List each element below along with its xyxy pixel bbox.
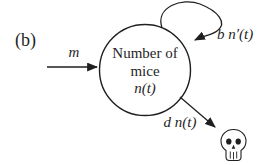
birth-rate-label: b n′(t) bbox=[217, 26, 253, 43]
immigration-flow: m bbox=[47, 44, 97, 67]
skull-left-eye bbox=[226, 138, 231, 144]
skull-right-eye bbox=[236, 138, 241, 144]
node-label-line1: Number of bbox=[112, 45, 177, 61]
mice-node: Number of mice n(t) bbox=[100, 25, 191, 116]
diagram-canvas: (b) m Number of mice n(t) b n′(t) d n(t) bbox=[0, 0, 259, 165]
compartment-diagram-panel: (b) m Number of mice n(t) b n′(t) d n(t) bbox=[0, 0, 259, 165]
death-rate-label: d n(t) bbox=[164, 114, 197, 131]
panel-label: (b) bbox=[15, 30, 36, 51]
skull-icon bbox=[221, 130, 246, 161]
death-flow: d n(t) bbox=[164, 97, 246, 161]
node-label-line3: n(t) bbox=[134, 80, 156, 97]
node-label-line2: mice bbox=[130, 63, 159, 79]
immigration-rate-label: m bbox=[69, 44, 80, 60]
